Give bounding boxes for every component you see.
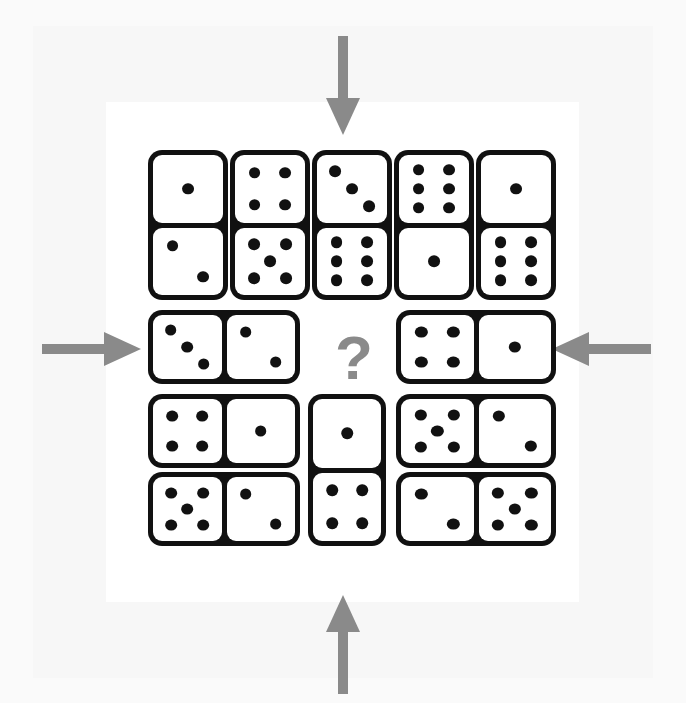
domino-top-col-5[interactable] (476, 150, 556, 300)
pip (331, 256, 343, 267)
pip (447, 518, 459, 529)
pip (361, 274, 373, 285)
pip (166, 520, 178, 531)
pip (329, 165, 341, 176)
pip (248, 239, 260, 250)
pip (279, 199, 291, 210)
pip (495, 274, 507, 285)
domino-face-4 (235, 155, 305, 223)
pip (414, 410, 426, 421)
domino-top-col-2[interactable] (230, 150, 310, 300)
pip (326, 517, 338, 529)
pip (443, 202, 455, 213)
domino-face-4 (153, 399, 222, 463)
domino-board: ? (148, 150, 573, 565)
pip (165, 325, 177, 336)
pip (356, 517, 368, 529)
pip (166, 488, 178, 499)
pip (363, 201, 375, 212)
domino-face-1 (399, 228, 469, 296)
pip (196, 410, 208, 421)
pip (270, 518, 282, 529)
pip (166, 410, 178, 421)
pip (415, 357, 427, 368)
domino-face-4 (401, 315, 474, 379)
pip (196, 441, 208, 452)
pip (249, 167, 261, 178)
pip (525, 256, 537, 267)
domino-face-1 (227, 399, 296, 463)
domino-lower-left-row1[interactable] (148, 394, 300, 468)
domino-face-5 (153, 477, 222, 541)
arrow-down-icon (325, 36, 361, 136)
pip (415, 326, 427, 337)
pip (525, 520, 537, 531)
domino-mid-right[interactable] (396, 310, 556, 384)
domino-lower-center[interactable] (308, 394, 386, 546)
domino-face-2 (479, 399, 552, 463)
puzzle-canvas: ? (0, 0, 686, 703)
pip (413, 164, 425, 175)
pip (181, 504, 193, 515)
pip (166, 441, 178, 452)
pip (493, 411, 505, 422)
pip (240, 327, 252, 338)
pip (443, 183, 455, 194)
pip (525, 274, 537, 285)
pip (240, 489, 252, 500)
pip (447, 326, 459, 337)
arrow-up-icon (325, 594, 361, 694)
pip (415, 489, 427, 500)
pip (448, 442, 460, 453)
pip (270, 356, 282, 367)
domino-face-6 (399, 155, 469, 223)
domino-top-col-1[interactable] (148, 150, 228, 300)
domino-top-col-4[interactable] (394, 150, 474, 300)
pip (443, 164, 455, 175)
domino-top-col-3[interactable] (312, 150, 392, 300)
pip (509, 342, 521, 353)
pip (264, 256, 276, 267)
pip (197, 520, 209, 531)
pip (280, 272, 292, 283)
pip (197, 271, 209, 282)
domino-face-2 (227, 477, 296, 541)
pip (356, 484, 368, 496)
domino-face-2 (227, 315, 296, 379)
domino-lower-right-row2[interactable] (396, 472, 556, 546)
pip (448, 410, 460, 421)
domino-face-1 (313, 399, 381, 468)
pip (197, 488, 209, 499)
pip (413, 202, 425, 213)
pip (346, 183, 358, 194)
pip (255, 426, 267, 437)
pip (198, 358, 210, 369)
pip (431, 426, 443, 437)
domino-face-2 (401, 477, 474, 541)
domino-mid-left[interactable] (148, 310, 300, 384)
domino-face-4 (313, 473, 381, 542)
domino-face-2 (153, 228, 223, 296)
pip (525, 488, 537, 499)
pip (495, 237, 507, 248)
pip (525, 237, 537, 248)
pip (510, 183, 522, 194)
pip (428, 256, 440, 267)
arrow-right-icon (42, 331, 142, 367)
pip (167, 240, 179, 251)
pip (248, 272, 260, 283)
domino-face-6 (317, 228, 387, 296)
pip (525, 440, 537, 451)
domino-face-1 (153, 155, 223, 223)
domino-face-1 (481, 155, 551, 223)
pip (495, 256, 507, 267)
pip (492, 488, 504, 499)
pip (181, 342, 193, 353)
pip (509, 504, 521, 515)
domino-face-5 (479, 477, 552, 541)
pip (331, 237, 343, 248)
domino-lower-right-row1[interactable] (396, 394, 556, 468)
pip (341, 427, 353, 439)
domino-face-5 (235, 228, 305, 296)
domino-lower-left-row2[interactable] (148, 472, 300, 546)
